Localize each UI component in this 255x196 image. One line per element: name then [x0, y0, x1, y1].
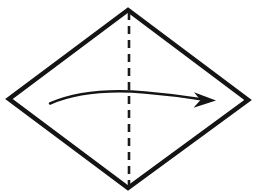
origami-fold-figure [0, 0, 255, 196]
fold-diagram-canvas [0, 0, 255, 196]
